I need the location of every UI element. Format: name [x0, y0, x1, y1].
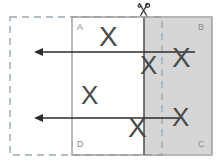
corner-label-c: C	[198, 140, 205, 149]
corner-label-b: B	[198, 23, 204, 32]
arrow-head-icon	[34, 114, 43, 122]
diagram-canvas: A B C D X X X X X X	[0, 0, 224, 162]
x-mark-shaded-lower: X	[172, 104, 189, 130]
corner-label-a: A	[77, 23, 83, 32]
x-mark-top-left: X	[99, 23, 118, 51]
x-mark-shaded-upper: X	[172, 44, 191, 72]
corner-label-d: D	[77, 140, 84, 149]
x-mark-middle-left: X	[81, 82, 98, 108]
shaded-cut-region	[144, 18, 212, 154]
arrow-head-icon	[34, 48, 43, 56]
scissors-icon	[138, 3, 149, 15]
x-mark-on-cut-upper: X	[140, 52, 157, 78]
x-mark-on-cut-lower: X	[128, 114, 147, 142]
